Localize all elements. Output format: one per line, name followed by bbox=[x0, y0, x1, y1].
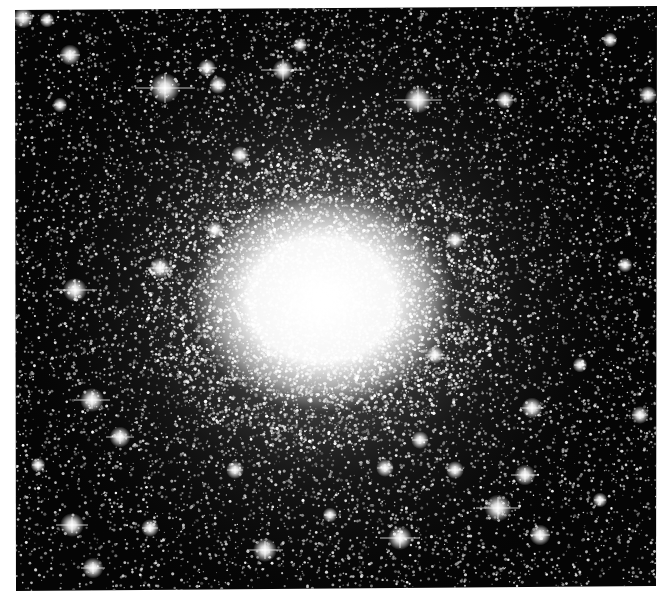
image-stage bbox=[0, 0, 670, 604]
globular-cluster-photo bbox=[0, 0, 670, 604]
